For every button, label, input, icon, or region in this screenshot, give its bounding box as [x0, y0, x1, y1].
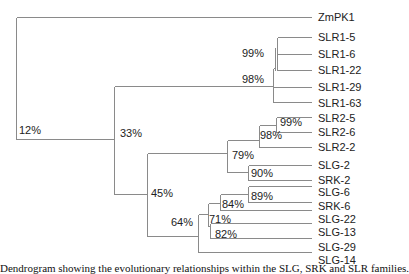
bootstrap-value: 12% — [19, 124, 41, 136]
leaf-label: SLG-2 — [318, 159, 350, 171]
bootstrap-value: 33% — [120, 127, 142, 139]
leaf-label: SLG-29 — [318, 241, 356, 253]
leaf-label: SRK-2 — [318, 174, 350, 186]
bootstrap-value: 89% — [251, 190, 273, 202]
bootstrap-value: 82% — [215, 228, 237, 240]
bootstrap-value: 90% — [251, 167, 273, 179]
leaf-label: SLR1-5 — [318, 31, 355, 43]
leaf-label: SLG-6 — [318, 186, 350, 198]
leaf-label: SLR1-29 — [318, 81, 361, 93]
leaf-label: SLG-13 — [318, 226, 356, 238]
leaf-label: SLR2-2 — [318, 141, 355, 153]
leaf-label: SLR1-63 — [318, 97, 361, 109]
bootstrap-value: 45% — [151, 187, 173, 199]
bootstrap-value: 98% — [260, 129, 282, 141]
bootstrap-value: 79% — [232, 149, 254, 161]
leaf-label: ZmPK1 — [318, 11, 355, 23]
leaf-label: SLR1-22 — [318, 64, 361, 76]
bootstrap-value: 99% — [280, 116, 302, 128]
bootstrap-value: 98% — [242, 73, 264, 85]
bootstrap-value: 99% — [242, 47, 264, 59]
figure-caption: Dendrogram showing the evolutionary rela… — [0, 262, 409, 274]
leaf-label: SLR2-5 — [318, 112, 355, 124]
leaf-label: SLR1-6 — [318, 48, 355, 60]
bootstrap-value: 64% — [171, 216, 193, 228]
bootstrap-value: 71% — [209, 213, 231, 225]
leaf-label: SLR2-6 — [318, 126, 355, 138]
leaf-label: SLG-22 — [318, 213, 356, 225]
bootstrap-value: 84% — [222, 198, 244, 210]
leaf-label: SRK-6 — [318, 200, 350, 212]
